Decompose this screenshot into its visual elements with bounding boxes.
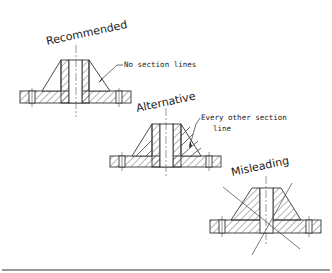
callout-text: No section lines — [124, 60, 196, 69]
figure-misleading: Misleading — [210, 154, 321, 255]
section-view-drawing: Recommended No section lines Alternative — [0, 0, 332, 273]
figure-title: Misleading — [230, 154, 290, 179]
callout-text: Every other section — [201, 113, 287, 122]
callout-text-line2: line — [213, 124, 232, 133]
figure-title: Recommended — [45, 18, 129, 48]
